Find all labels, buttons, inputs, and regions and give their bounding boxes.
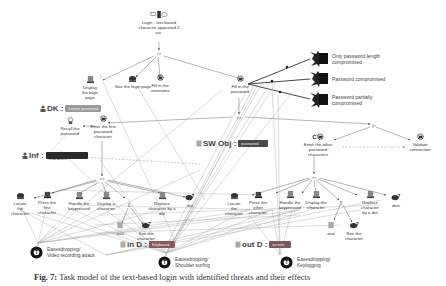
choice-operator: [] bbox=[128, 202, 130, 207]
enabling-operator: >> bbox=[237, 115, 242, 120]
out-d-value: screen bbox=[269, 241, 291, 248]
threat-video-recording: T Eavesdropping/Video recording attack bbox=[30, 246, 95, 259]
left-see-node: 7 See the character bbox=[136, 222, 156, 241]
threat-subname: Keylogging bbox=[297, 263, 330, 269]
enabling-operator: >> bbox=[100, 176, 105, 181]
enter-other-chars-node: C Enter the other password characters bbox=[302, 133, 334, 157]
threat-name: Eavesdropping/ bbox=[175, 257, 210, 263]
outcome-label: Password partially compromised bbox=[332, 94, 384, 106]
right-handle-node: Handle the keypressed bbox=[278, 191, 302, 210]
system-task-icon bbox=[366, 191, 375, 199]
outcome-label: Password compromised bbox=[332, 76, 385, 82]
right-press-node: Press the other character bbox=[245, 191, 271, 215]
svg-text:C: C bbox=[312, 133, 317, 140]
right-replace-node: Replace character by a dot bbox=[360, 191, 380, 215]
system-task-icon bbox=[327, 222, 336, 230]
system-task-icon bbox=[102, 192, 111, 200]
threat-keylogging: T Eavesdropping/Keylogging bbox=[280, 256, 330, 269]
caption-text: Task model of the text-based login with … bbox=[59, 272, 310, 282]
left-wait-label: wait bbox=[116, 231, 124, 236]
interactive-task-icon bbox=[236, 75, 245, 83]
enter-first-char-node: Enter the first password character bbox=[89, 115, 117, 139]
user-icon bbox=[22, 152, 28, 159]
input-device-tag: in D : Keyboard bbox=[120, 240, 175, 249]
bomb-icon bbox=[308, 91, 330, 109]
left-locate-node: Locate the character bbox=[10, 192, 30, 216]
right-wait-node: wait bbox=[327, 222, 336, 236]
left-replace-node: Replace character by a dot bbox=[145, 192, 179, 216]
perception-timed-icon: 7 bbox=[141, 222, 152, 230]
threat-icon: T bbox=[280, 256, 293, 269]
figure-caption: Fig. 7: Task model of the text-based log… bbox=[34, 272, 310, 282]
in-d-label: in D : bbox=[127, 240, 147, 249]
left-delay-label: dot bbox=[187, 203, 193, 208]
left-locate-label: Locate the character bbox=[10, 201, 30, 216]
cognitive-task-icon bbox=[66, 117, 75, 125]
left-wait-node: wait bbox=[116, 222, 125, 236]
threat-subname: Shoulder surfing bbox=[175, 263, 210, 269]
enabling-operator: >> bbox=[157, 51, 162, 56]
outcome-password-compromised: Password compromised bbox=[308, 70, 385, 88]
software-object-tag: SW Obj : password bbox=[196, 139, 268, 148]
system-task-icon bbox=[116, 222, 125, 230]
interactive-task-icon bbox=[99, 115, 108, 123]
iterative-interactive-task-icon: C bbox=[312, 133, 325, 141]
svg-text:T: T bbox=[285, 260, 288, 265]
declarative-knowledge-tag: DK : known password bbox=[40, 104, 101, 113]
left-handle-node: Handle the keypressed bbox=[67, 192, 91, 211]
interactive-task-icon bbox=[156, 74, 165, 82]
perception-timed-icon: 7 bbox=[185, 194, 196, 202]
device-icon bbox=[235, 241, 241, 248]
enter-other-chars-label: Enter the other password characters bbox=[302, 142, 334, 157]
bomb-icon bbox=[308, 50, 330, 68]
inf-label: Inf : bbox=[29, 151, 44, 160]
disabling-operator: [> bbox=[372, 123, 376, 128]
user-perception-icon bbox=[230, 192, 239, 200]
fill-password-label: Fill in the password bbox=[230, 84, 250, 94]
left-press-node: Press the first character bbox=[35, 191, 59, 215]
device-icon bbox=[120, 241, 126, 248]
right-locate-label: Locate the character bbox=[224, 201, 244, 216]
system-task-icon bbox=[75, 192, 84, 200]
choice-operator: [] bbox=[340, 200, 342, 205]
left-delay-node: 7 dot bbox=[185, 194, 196, 208]
svg-text:7: 7 bbox=[148, 222, 151, 227]
fill-username-label: Fill in the username bbox=[150, 83, 170, 93]
abstract-task-icon bbox=[148, 10, 170, 19]
root-task-label: Login - text based character appeared 2 … bbox=[137, 20, 181, 35]
dk-value: known password bbox=[65, 105, 101, 112]
right-replace-label: Replace character by a dot bbox=[360, 200, 380, 215]
system-task-icon bbox=[86, 76, 95, 84]
information-tag: Inf : password characters bbox=[22, 151, 88, 160]
system-task-icon bbox=[286, 191, 295, 199]
threat-shoulder-surfing: T Eavesdropping/Shoulder surfing bbox=[158, 256, 210, 269]
left-display-node: Display a character bbox=[96, 192, 116, 211]
right-delay-node: 7 dots bbox=[391, 194, 402, 208]
threat-subname: Video recording attack bbox=[47, 253, 95, 259]
left-press-label: Press the first character bbox=[35, 200, 59, 215]
system-task-icon bbox=[312, 191, 321, 199]
fill-password-node: Fill in the password bbox=[230, 75, 250, 94]
inf-value: password characters bbox=[46, 152, 88, 159]
svg-text:7: 7 bbox=[356, 222, 359, 227]
svg-text:7: 7 bbox=[398, 194, 401, 199]
display-login-page-node: Display the login page bbox=[80, 76, 100, 100]
bomb-icon bbox=[308, 70, 330, 88]
sw-obj-value: password bbox=[238, 140, 268, 147]
output-device-tag: out D : screen bbox=[235, 240, 291, 249]
outcome-label: Only password length compromised bbox=[332, 53, 392, 65]
right-see-node: 7 See the character bbox=[344, 222, 364, 241]
caption-label: Fig. 7: bbox=[34, 272, 57, 282]
user-motor-icon bbox=[43, 191, 52, 199]
right-display-node: Display the character bbox=[305, 191, 327, 210]
svg-text:T: T bbox=[35, 250, 38, 255]
in-d-value: Keyboard bbox=[149, 241, 175, 248]
validate-connection-label: Validate connection bbox=[408, 142, 432, 152]
recall-password-label: Recall the password bbox=[60, 126, 80, 136]
dk-label: DK : bbox=[47, 104, 63, 113]
recall-password-node: Recall the password bbox=[60, 117, 80, 136]
enabling-operator: >> bbox=[312, 175, 317, 180]
right-wait-label: wait bbox=[327, 231, 335, 236]
right-delay-label: dots bbox=[392, 203, 400, 208]
display-login-page-label: Display the login page bbox=[80, 85, 100, 100]
